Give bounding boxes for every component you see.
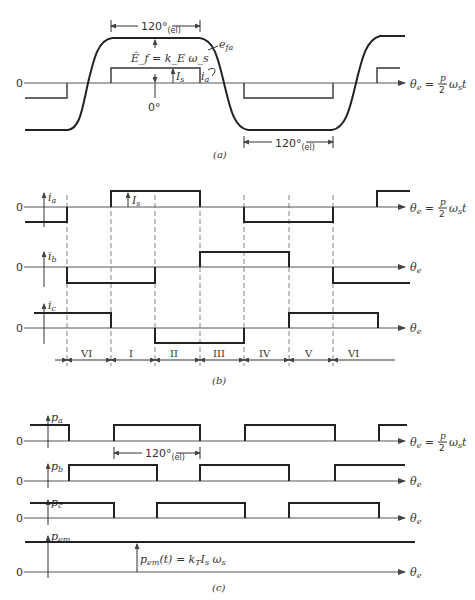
emf-amplitude-eq: Ê_f = k_E ω_s [130,51,209,65]
svg-text:θe =: θe = [410,202,434,216]
svg-text:ωst: ωst [449,436,467,450]
svg-text:0: 0 [16,435,23,448]
svg-text:0: 0 [16,261,23,274]
pb-label: pb [51,460,63,474]
svg-text:2: 2 [439,209,445,219]
svg-text:θe: θe [410,475,422,489]
pb-waveform [69,465,405,481]
pa-label: pa [51,411,63,425]
pem-equation: pem(t) = kTIs ωs [140,553,226,567]
sector-label: V [304,348,313,359]
svg-text:p: p [440,73,446,83]
angle-label-c: 120°(el) [145,447,185,462]
sector-boundaries [67,195,333,366]
caption-b: (b) [212,375,226,386]
current-amplitude-label: Is [175,70,184,84]
svg-text:0: 0 [16,512,23,525]
sector-label: IV [259,348,271,359]
svg-text:0: 0 [16,475,23,488]
svg-text:p: p [440,431,446,441]
sector-label: VI [347,348,359,359]
svg-text:θe: θe [410,322,422,336]
panel-b: 0 ia Is θe = p 2 ωst 0 ib θe 0 ic θe [16,191,467,386]
panel-a: 0 120°(el) Ê_f = k_E ω_s 0° Is ia efa [16,18,467,160]
angle-label-bottom: 120°(el) [275,137,315,152]
svg-text:2: 2 [439,443,445,453]
angle-label-top: 120°(el) [141,20,181,35]
svg-text:0: 0 [16,322,23,335]
origin-label: 0° [148,101,161,114]
ic-label: ic [48,299,57,313]
current-amplitude-label-b: Is [131,194,140,208]
zero-label: 0 [16,77,23,90]
svg-text:θe: θe [410,512,422,526]
svg-text:0: 0 [16,566,23,579]
caption-c: (c) [212,582,226,593]
sector-label: III [213,348,225,359]
sector-label: VI [80,348,92,359]
sector-label: II [170,348,178,359]
panel-c: 0 pa 120°(el) θe = p 2 ωst 0 pb θe 0 pc … [16,411,467,593]
axis-label: θe = [410,78,434,92]
pa-waveform [30,425,407,441]
bldc-waveform-diagram: 0 120°(el) Ê_f = k_E ω_s 0° Is ia efa [0,0,475,600]
emf-label: efa [219,38,233,52]
svg-text:θe: θe [410,261,422,275]
sector-row: VI I II III IV V VI [55,348,395,360]
pc-waveform [30,503,379,518]
svg-text:ωst: ωst [449,78,467,92]
svg-text:0: 0 [16,201,23,214]
svg-text:ωst: ωst [449,202,467,216]
caption-a: (a) [213,149,227,160]
svg-text:θe =: θe = [410,436,434,450]
ia-label: ia [48,191,57,205]
svg-text:2: 2 [439,85,445,95]
svg-text:p: p [440,197,446,207]
current-label: ia [201,70,210,84]
ib-label: ib [48,250,57,264]
sector-label: I [129,348,133,359]
svg-text:θe: θe [410,566,422,580]
